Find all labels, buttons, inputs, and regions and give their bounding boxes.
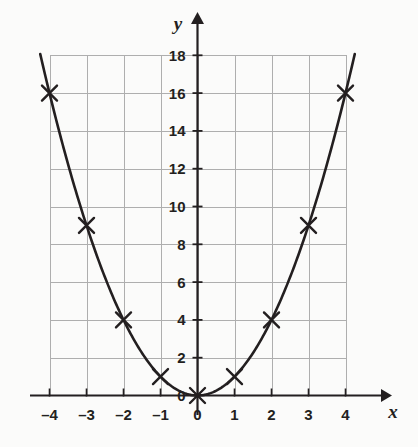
y-tick-label: 10 bbox=[169, 198, 186, 215]
y-tick-label: 4 bbox=[177, 311, 186, 328]
x-tick-label: 0 bbox=[193, 406, 201, 423]
x-tick-label: –4 bbox=[41, 406, 58, 423]
x-tick-label: 4 bbox=[341, 406, 350, 423]
y-tick-label: 14 bbox=[169, 122, 186, 139]
y-tick-label: 12 bbox=[169, 160, 186, 177]
parabola-plot: –4–3–2–101234 024681012141618 y x bbox=[0, 0, 418, 447]
y-tick-label: 18 bbox=[169, 47, 186, 64]
x-tick-label: 1 bbox=[230, 406, 238, 423]
plot-background bbox=[0, 0, 418, 447]
x-tick-label: 3 bbox=[304, 406, 312, 423]
y-tick-label: 8 bbox=[177, 236, 185, 253]
x-tick-label: –1 bbox=[152, 406, 169, 423]
graph-figure: –4–3–2–101234 024681012141618 y x bbox=[0, 0, 418, 447]
y-tick-label: 2 bbox=[177, 349, 185, 366]
x-axis-label: x bbox=[387, 401, 398, 422]
y-tick-label: 16 bbox=[169, 85, 186, 102]
x-tick-label: –2 bbox=[115, 406, 132, 423]
x-axis-tick-labels: –4–3–2–101234 bbox=[41, 406, 350, 423]
x-tick-label: 2 bbox=[267, 406, 275, 423]
x-tick-label: –3 bbox=[78, 406, 95, 423]
y-axis-label: y bbox=[172, 13, 183, 34]
y-tick-label: 6 bbox=[177, 274, 185, 291]
